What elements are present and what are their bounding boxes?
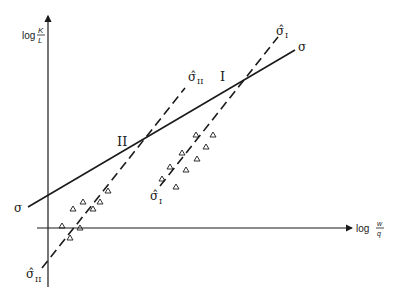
sigma-label-right: σ xyxy=(298,40,306,54)
x-axis-label: log w q xyxy=(356,220,384,238)
y-axis-label: log K L xyxy=(22,26,45,45)
triangle-marker xyxy=(193,132,199,137)
intersection-label-II: II xyxy=(117,134,127,149)
x-label-denominator: q xyxy=(377,230,381,238)
sigma-hat-I-label-bottom: σ̂ I xyxy=(150,189,162,206)
svg-text:I: I xyxy=(285,31,288,40)
x-label-numerator: w xyxy=(377,220,383,227)
intersection-label-I: I xyxy=(220,69,225,84)
triangle-marker xyxy=(97,199,103,204)
triangle-marker xyxy=(70,206,76,211)
observation-markers-I xyxy=(159,132,216,189)
triangle-marker xyxy=(59,223,65,228)
triangle-marker xyxy=(173,184,179,189)
triangle-marker xyxy=(159,176,165,181)
sigma-hat-II-label-bottom: σ̂ II xyxy=(26,267,41,284)
triangle-marker xyxy=(179,150,185,155)
sigma-hat-I-label-top: σ̂ I xyxy=(276,24,288,40)
svg-text:II: II xyxy=(197,77,203,86)
svg-text:σ̂: σ̂ xyxy=(26,267,34,281)
diagram-canvas: log K L log w q σ σ σ̂ I σ̂ I σ̂ II σ̂ I… xyxy=(0,0,396,287)
svg-text:σ̂: σ̂ xyxy=(188,70,196,84)
svg-text:σ̂: σ̂ xyxy=(150,189,158,203)
triangle-marker xyxy=(67,235,73,240)
observation-markers-II xyxy=(59,188,111,240)
triangle-marker xyxy=(194,156,200,161)
sigma-label-left: σ xyxy=(14,201,22,215)
svg-text:σ̂: σ̂ xyxy=(276,24,284,38)
y-label-prefix: log xyxy=(22,30,35,41)
svg-text:II: II xyxy=(35,275,41,284)
svg-text:I: I xyxy=(159,197,162,206)
x-label-prefix: log xyxy=(356,223,369,234)
triangle-marker xyxy=(203,144,209,149)
y-label-numerator: K xyxy=(38,26,44,35)
sigma-hat-II-label-top: σ̂ II xyxy=(188,70,203,86)
triangle-marker xyxy=(80,199,86,204)
y-label-denominator: L xyxy=(38,36,42,45)
triangle-marker xyxy=(167,164,173,169)
triangle-marker xyxy=(210,132,216,137)
sigma-hat-I-line xyxy=(160,37,278,186)
triangle-marker xyxy=(183,167,189,172)
